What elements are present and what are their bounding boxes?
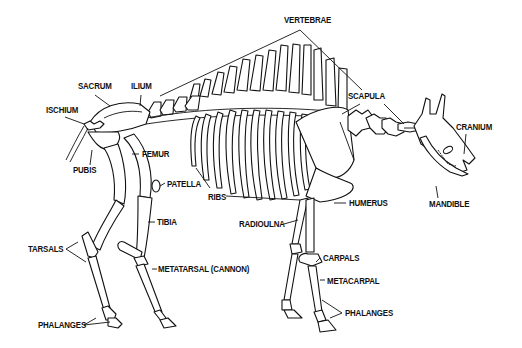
label-metacarpal: METACARPAL xyxy=(327,277,379,286)
label-humerus: HUMERUS xyxy=(349,199,388,208)
cervical-vertebrae xyxy=(348,110,420,136)
label-tibia: TIBIA xyxy=(157,218,177,227)
label-phalanges-fore: PHALANGES xyxy=(345,309,393,318)
label-ribs: RIBS xyxy=(208,193,226,202)
label-ischium: ISCHIUM xyxy=(46,106,78,115)
label-patella: PATELLA xyxy=(167,180,201,189)
label-scapula: SCAPULA xyxy=(348,92,385,101)
label-phalanges-hind: PHALANGES xyxy=(38,321,86,330)
label-pubis: PUBIS xyxy=(73,166,96,175)
skeleton-diagram: VERTEBRAE SACRUM ILIUM SCAPULA ISCHIUM C… xyxy=(0,0,522,348)
label-vertebrae: VERTEBRAE xyxy=(284,16,331,25)
label-tarsals: TARSALS xyxy=(28,245,63,254)
label-carpals: CARPALS xyxy=(323,254,359,263)
fore-leg-front xyxy=(299,198,336,332)
label-mandible: MANDIBLE xyxy=(429,200,469,209)
label-metatarsal: METATARSAL (CANNON) xyxy=(158,265,249,274)
label-sacrum: SACRUM xyxy=(78,82,112,91)
hind-leg-front xyxy=(118,134,176,328)
label-femur: FEMUR xyxy=(142,150,169,159)
label-cranium: CRANIUM xyxy=(456,123,492,132)
label-radioulna: RADIOULNA xyxy=(239,220,285,229)
label-ilium: ILIUM xyxy=(131,82,152,91)
